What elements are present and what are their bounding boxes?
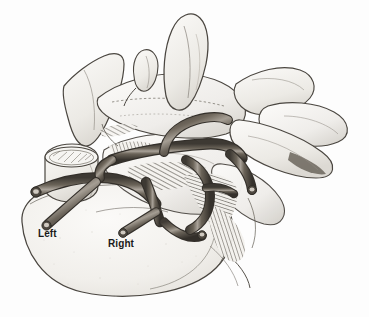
annotation-label-left: Left: [38, 228, 57, 239]
anatomical-illustration: [0, 0, 369, 317]
annotation-label-right: Right: [108, 238, 134, 249]
figure-root: Left Right: [0, 0, 369, 317]
